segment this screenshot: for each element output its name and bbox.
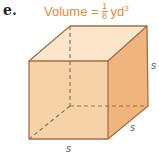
edge-label-height: s [151,60,156,71]
edge-label-depth: s [130,122,135,133]
edge-label-width: s [66,143,71,154]
cube-figure: s s s [0,0,159,155]
cube-front-face [29,61,108,139]
